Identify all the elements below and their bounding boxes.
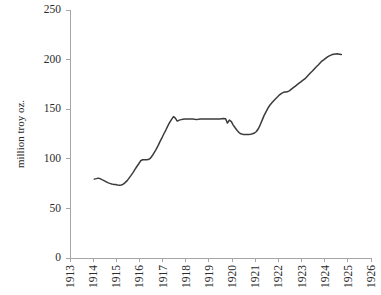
y-axis-tick-label: 150 [44,102,62,114]
x-axis-tick-label: 1923 [296,265,308,288]
x-axis-tick-label: 1913 [64,265,76,288]
y-axis-tick-label: 0 [55,251,61,263]
data-series-line [94,54,341,185]
x-axis-tick-label: 1921 [249,265,261,288]
x-axis-tick-label: 1926 [365,265,377,288]
x-axis-tick-label: 1916 [133,265,145,288]
x-axis-tick-labels: 1913191419151916191719181919192019211922… [64,265,377,288]
x-axis-tick-label: 1925 [342,265,354,288]
y-axis-tick-marks [66,10,70,258]
line-chart: 050100150200250 191319141915191619171918… [0,0,381,295]
y-axis-title: million troy oz. [14,100,26,168]
x-axis-tick-label: 1920 [226,265,238,288]
x-axis-tick-label: 1924 [319,265,331,288]
x-axis-tick-label: 1922 [272,265,284,288]
y-axis-tick-label: 50 [50,202,62,214]
chart-figure: 050100150200250 191319141915191619171918… [0,0,381,295]
x-axis-tick-label: 1914 [87,265,99,288]
y-axis-tick-label: 100 [44,152,62,164]
x-axis-tick-label: 1915 [110,265,122,288]
y-axis-tick-label: 200 [44,53,62,65]
x-axis-tick-label: 1918 [180,265,192,288]
y-axis-tick-labels: 050100150200250 [44,3,62,263]
x-axis-tick-label: 1917 [157,265,169,288]
y-axis-tick-label: 250 [44,3,62,15]
x-axis-tick-label: 1919 [203,265,215,288]
x-axis-tick-marks [70,258,371,262]
